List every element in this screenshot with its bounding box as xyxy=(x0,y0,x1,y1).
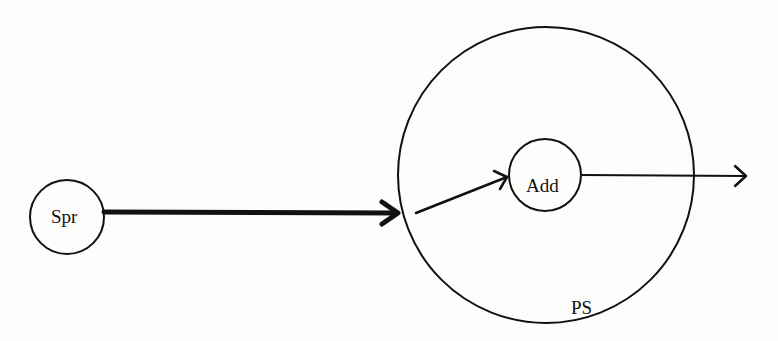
edge-add-to-output xyxy=(581,166,746,186)
add-node-label: Add xyxy=(526,176,559,195)
edge-ps-to-add xyxy=(416,171,507,213)
spr-node-label: Spr xyxy=(51,207,77,226)
ps-node-label: PS xyxy=(571,298,592,317)
edge-spr-to-ps xyxy=(104,202,398,224)
diagram-canvas xyxy=(0,0,778,341)
